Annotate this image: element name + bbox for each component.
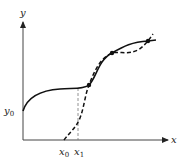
intersection-point-2 (110, 51, 114, 55)
diagram: y x y0 x0 x1 (0, 0, 183, 163)
approximation-curve (64, 34, 153, 140)
y-axis-label: y (19, 7, 26, 18)
x0-label: x0 (59, 146, 69, 159)
x1-label: x1 (74, 146, 84, 159)
intersection-point-3 (146, 39, 150, 43)
y0-label: y0 (3, 105, 14, 118)
intersection-point-1 (87, 83, 91, 87)
x-axis-label: x (171, 134, 177, 145)
